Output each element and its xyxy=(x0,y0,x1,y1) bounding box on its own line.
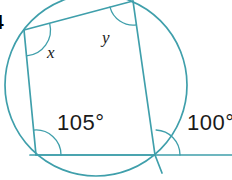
angle-arc-100 xyxy=(156,130,180,155)
quad-side-left xyxy=(24,30,36,155)
angle-arc-y xyxy=(110,7,136,25)
angle-label-y: y xyxy=(102,29,110,46)
angle-label-100: 100° xyxy=(187,112,232,134)
figure-number: 4 xyxy=(0,11,4,32)
quad-side-right xyxy=(133,1,155,155)
angle-label-x: x xyxy=(47,44,55,61)
extended-side-segment xyxy=(155,155,162,173)
geometry-figure: 4 x y 105° 100° xyxy=(0,0,232,180)
quad-side-top xyxy=(24,1,133,30)
circumscribed-circle xyxy=(5,0,187,176)
geometry-diagram xyxy=(0,0,232,180)
angle-label-105: 105° xyxy=(57,112,105,134)
